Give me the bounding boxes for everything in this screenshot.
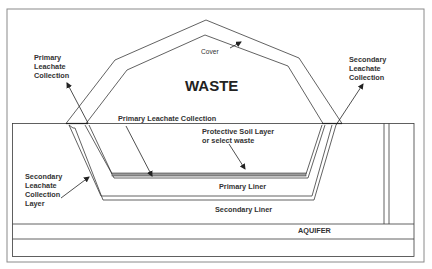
label-line: Leachate (34, 62, 69, 71)
primary-leachate-collection-top-label: Primary Leachate Collection (34, 53, 69, 80)
primary-leachate-collection-layer (112, 173, 306, 176)
arrow-primary-leachate-collection-top (67, 83, 88, 123)
label-line: Secondary (349, 55, 386, 64)
arrow-primary-leachate-collection-mid (126, 126, 152, 176)
secondary-liner-label: Secondary Liner (215, 205, 272, 214)
cover-label: Cover (201, 47, 219, 56)
label-line: or select waste (202, 136, 274, 145)
primary-leachate-collection-mid-label: Primary Leachate Collection (118, 114, 216, 123)
protective-soil-layer-label: Protective Soil Layer or select waste (202, 127, 274, 145)
secondary-leachate-collection-layer-label: Secondary Leachate Collection Layer (25, 172, 62, 208)
arrow-secondary-leachate-collection-layer (61, 177, 89, 198)
label-line: Layer (25, 199, 62, 208)
label-line: Collection (34, 71, 69, 80)
label-line: Leachate (25, 181, 62, 190)
secondary-leachate-collection-top-label: Secondary Leachate Collection (349, 55, 386, 82)
label-line: Collection (349, 73, 386, 82)
label-line: Collection (25, 190, 62, 199)
label-line: Primary (34, 53, 69, 62)
arrow-protective-soil-layer (229, 144, 245, 169)
secondary-liner-inner (69, 125, 332, 196)
aquifer-label: AQUIFER (298, 226, 331, 235)
primary-liner-label: Primary Liner (219, 182, 266, 191)
waste-label: WASTE (185, 78, 238, 94)
arrow-secondary-leachate-collection-top (336, 84, 363, 125)
label-line: Secondary (25, 172, 62, 181)
label-line: Leachate (349, 64, 386, 73)
label-line: Protective Soil Layer (202, 127, 274, 136)
